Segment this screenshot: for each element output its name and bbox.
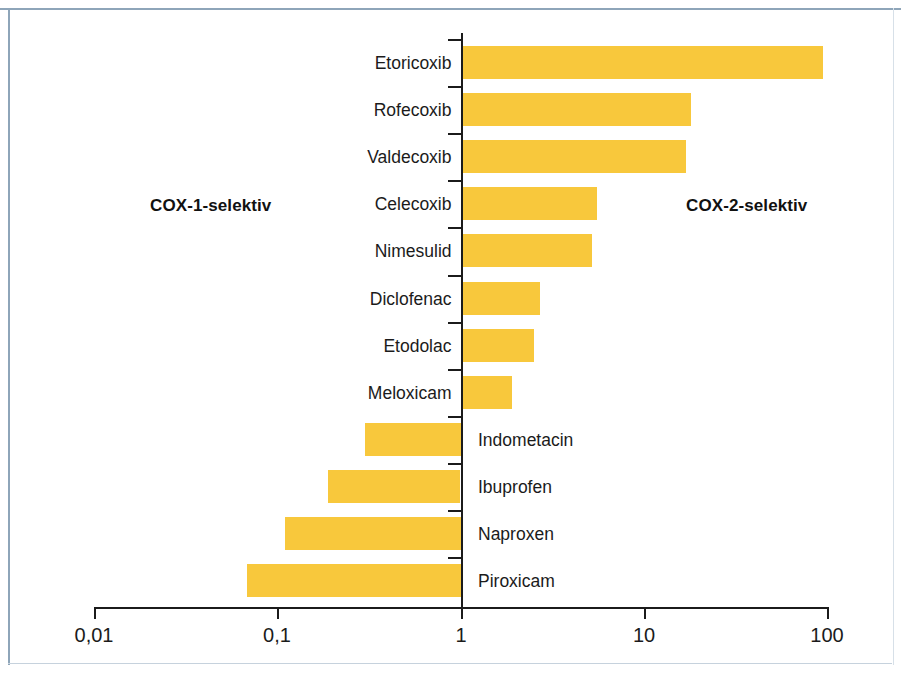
category-label-piroxicam: Piroxicam <box>478 571 555 591</box>
bar-celecoxib <box>461 187 597 220</box>
x-axis-tick <box>94 607 96 619</box>
x-axis-tick-label: 1 <box>455 624 466 647</box>
category-label-celecoxib: Celecoxib <box>375 194 452 214</box>
category-label-etodolac: Etodolac <box>383 336 451 356</box>
bar-naproxen <box>285 517 461 550</box>
bar-piroxicam <box>247 564 461 597</box>
bar-etodolac <box>461 329 534 362</box>
category-label-meloxicam: Meloxicam <box>368 383 452 403</box>
category-label-indometacin: Indometacin <box>478 430 573 450</box>
x-axis-tick <box>827 607 829 619</box>
bar-meloxicam <box>461 376 512 409</box>
baseline-axis-value-1 <box>461 33 463 617</box>
x-axis-tick-label: 100 <box>810 624 843 647</box>
category-label-nimesulid: Nimesulid <box>375 241 452 261</box>
row-tick <box>448 39 461 41</box>
category-label-etoricoxib: Etoricoxib <box>375 53 452 73</box>
row-tick <box>448 557 461 559</box>
row-tick <box>448 133 461 135</box>
category-label-naproxen: Naproxen <box>478 524 554 544</box>
x-axis-tick <box>644 607 646 619</box>
row-tick <box>448 227 461 229</box>
x-axis-tick <box>277 607 279 619</box>
annotation-cox2-selective: COX-2-selektiv <box>686 196 807 216</box>
category-label-diclofenac: Diclofenac <box>370 289 452 309</box>
bar-nimesulid <box>461 234 592 267</box>
bar-ibuprofen <box>328 470 460 503</box>
bar-indometacin <box>365 423 461 456</box>
x-axis-tick-label: 0,01 <box>75 624 114 647</box>
annotation-cox1-selective: COX-1-selektiv <box>150 196 271 216</box>
bar-rofecoxib <box>461 93 691 126</box>
category-label-valdecoxib: Valdecoxib <box>367 147 451 167</box>
x-axis-tick-label: 0,1 <box>263 624 291 647</box>
row-tick <box>448 322 461 324</box>
chart-plot-area: EtoricoxibRofecoxibValdecoxibCelecoxibNi… <box>0 0 901 673</box>
category-label-ibuprofen: Ibuprofen <box>478 477 552 497</box>
row-tick <box>448 369 461 371</box>
row-tick <box>448 416 461 418</box>
row-tick <box>448 510 461 512</box>
bar-valdecoxib <box>461 140 686 173</box>
x-axis-tick-label: 10 <box>633 624 655 647</box>
bar-diclofenac <box>461 282 540 315</box>
cox-selectivity-figure: EtoricoxibRofecoxibValdecoxibCelecoxibNi… <box>0 0 901 673</box>
category-label-rofecoxib: Rofecoxib <box>374 100 452 120</box>
row-tick <box>448 86 461 88</box>
row-tick <box>448 180 461 182</box>
bar-etoricoxib <box>461 46 823 79</box>
row-tick <box>448 463 461 465</box>
x-axis-tick <box>461 607 463 619</box>
row-tick <box>448 275 461 277</box>
